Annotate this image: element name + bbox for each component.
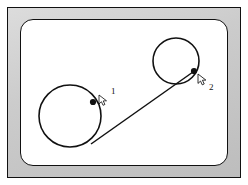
screen-figure: 1 2	[0, 0, 248, 185]
node-point-2-dot	[191, 68, 197, 74]
cursor-arrow-2-icon	[198, 74, 206, 85]
cursor-arrow-1-icon	[99, 95, 106, 105]
circle-left	[39, 85, 101, 147]
node-point-1-dot	[90, 99, 96, 105]
node-point-1-label: 1	[111, 86, 116, 96]
diagram-canvas: 1 2	[21, 20, 228, 166]
node-point-2-label: 2	[209, 82, 214, 92]
screen-canvas: 1 2	[20, 19, 228, 166]
circle-right	[153, 38, 199, 84]
connector-line	[91, 72, 193, 144]
